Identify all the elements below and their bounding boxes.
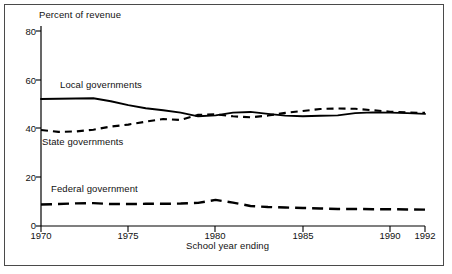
x-axis-ticks <box>41 226 425 232</box>
series-line-local <box>41 98 425 116</box>
data-series-group <box>41 98 425 209</box>
y-axis-ticks <box>36 31 41 226</box>
line-chart: Percent of revenue School year ending 80… <box>0 0 452 274</box>
series-line-federal <box>41 200 425 210</box>
plot-svg <box>0 0 452 274</box>
